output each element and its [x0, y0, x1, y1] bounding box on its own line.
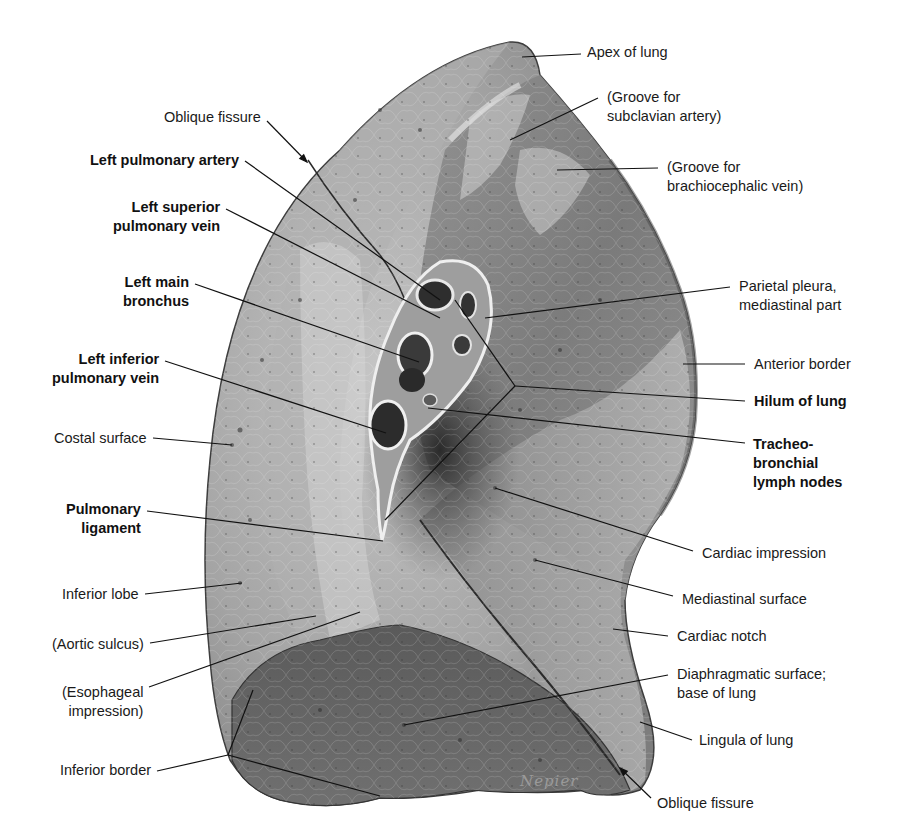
label-left-superior-pulmonary-vein: Left superior pulmonary vein — [113, 198, 220, 236]
label-left-main-bronchus: Left main bronchus — [123, 273, 189, 311]
label-tracheobronchial-lymph-nodes: Tracheo- bronchial lymph nodes — [753, 435, 842, 492]
label-oblique-fissure-top: Oblique fissure — [164, 108, 261, 127]
label-anterior-border: Anterior border — [754, 355, 851, 374]
label-hilum-of-lung: Hilum of lung — [754, 392, 847, 411]
label-apex-of-lung: Apex of lung — [587, 43, 668, 62]
label-esophageal-impression: (Esophageal impression) — [62, 683, 143, 721]
label-groove-subclavian: (Groove for subclavian artery) — [607, 88, 721, 126]
left-pulmonary-artery-shape — [417, 280, 453, 310]
label-inferior-border: Inferior border — [60, 761, 151, 780]
left-inferior-pulmonary-vein-shape — [370, 401, 406, 449]
label-parietal-pleura: Parietal pleura, mediastinal part — [739, 277, 841, 315]
label-lingula-of-lung: Lingula of lung — [699, 731, 793, 750]
label-costal-surface: Costal surface — [54, 429, 147, 448]
artist-signature: Nepier — [520, 772, 578, 790]
label-oblique-fissure-bottom: Oblique fissure — [657, 794, 754, 813]
label-cardiac-notch: Cardiac notch — [677, 627, 766, 646]
label-pulmonary-ligament: Pulmonary ligament — [66, 500, 141, 538]
label-mediastinal-surface: Mediastinal surface — [682, 590, 807, 609]
leader-line-oblique-fissure-top — [267, 121, 307, 162]
label-inferior-lobe: Inferior lobe — [62, 585, 139, 604]
label-aortic-sulcus: (Aortic sulcus) — [52, 635, 144, 654]
label-left-inferior-pulmonary-vein: Left inferior pulmonary vein — [52, 350, 159, 388]
label-diaphragmatic-surface: Diaphragmatic surface; base of lung — [677, 665, 826, 703]
label-cardiac-impression: Cardiac impression — [702, 544, 826, 563]
label-groove-brachiocephalic: (Groove for brachiocephalic vein) — [667, 158, 803, 196]
lung-anatomy-figure: Apex of lung(Groove for subclavian arter… — [0, 0, 897, 840]
label-left-pulmonary-artery: Left pulmonary artery — [90, 151, 239, 170]
leader-line-inferior-border — [157, 755, 228, 771]
